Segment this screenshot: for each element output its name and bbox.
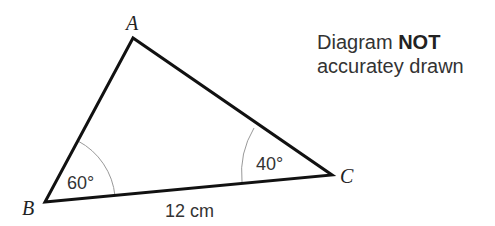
angle-label-c: 40° — [256, 154, 283, 174]
vertex-label-a: A — [124, 12, 139, 34]
note-bold: NOT — [398, 31, 440, 53]
angle-label-b: 60° — [67, 173, 94, 193]
side-label-bc: 12 cm — [165, 201, 214, 221]
note-line-2: accuratey drawn — [317, 54, 464, 78]
angle-arc-c — [242, 128, 254, 182]
not-to-scale-note: Diagram NOT accuratey drawn — [317, 30, 464, 78]
vertex-label-c: C — [340, 165, 354, 187]
vertex-label-b: B — [22, 197, 34, 219]
note-prefix: Diagram — [317, 31, 393, 53]
note-line-1: Diagram NOT — [317, 30, 464, 54]
